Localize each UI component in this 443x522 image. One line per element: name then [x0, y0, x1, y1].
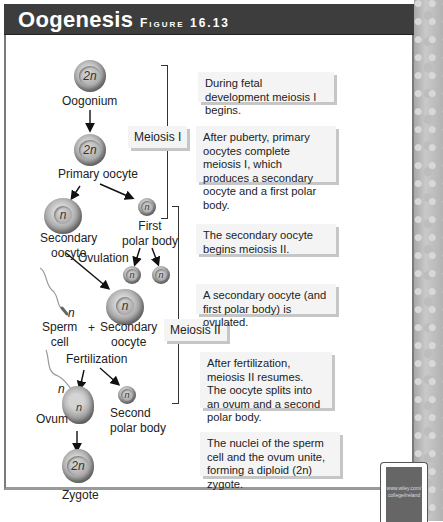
description-fetal-development: During fetal development meiosis I begin…: [198, 72, 334, 102]
description-zygote: The nuclei of the sperm cell and the ovu…: [200, 432, 340, 476]
ovulation-label: Ovulation: [78, 251, 129, 266]
second-polar-body-label-line1: Second: [110, 406, 151, 420]
ovum-ploidy: n: [72, 400, 86, 414]
second-polar-body-label-line2: polar body: [110, 421, 166, 435]
polar-body-a-ploidy: n: [126, 269, 138, 281]
oogonium-cell: 2n: [74, 60, 106, 92]
arrow-to-polar-body-a: [135, 248, 140, 264]
second-polar-body-label: Second polar body: [110, 406, 166, 436]
polar-body-b-cell: n: [152, 266, 170, 284]
description-fertilization: After fertilization, meiosis II resumes.…: [200, 352, 332, 408]
sperm-label-line1: Sperm: [42, 320, 77, 334]
primary-oocyte-cell: 2n: [74, 134, 106, 166]
polar-body-b-ploidy: n: [155, 269, 167, 281]
second-polar-body-ploidy: n: [121, 389, 133, 401]
secondary-oocyte-ploidy: n: [54, 206, 72, 224]
arrow-to-second-polar-body: [100, 368, 118, 384]
ovum-label: Ovum: [36, 412, 68, 427]
sperm-cell-label: Sperm cell: [42, 320, 77, 350]
oogonium-ploidy: 2n: [79, 66, 101, 86]
meiosis-1-label: Meiosis I: [128, 126, 187, 148]
arrow-to-polar-body-b: [152, 248, 158, 264]
web-link-line1: www.wiley.com/: [387, 485, 422, 491]
arrow-to-secondary-oocyte: [72, 186, 80, 198]
description-ovulated: A secondary oocyte (and first polar body…: [196, 284, 336, 314]
zygote-label: Zygote: [62, 488, 99, 503]
web-link-badge[interactable]: www.wiley.com/ college/ireland: [380, 462, 428, 522]
description-puberty: After puberty, primary oocytes complete …: [196, 126, 336, 182]
primary-oocyte-label: Primary oocyte: [58, 167, 138, 182]
web-link-text[interactable]: www.wiley.com/ college/ireland: [386, 467, 422, 522]
sperm-label-line2: cell: [51, 335, 69, 349]
primary-oocyte-ploidy: 2n: [79, 140, 101, 160]
sperm-tail: [40, 268, 64, 310]
first-polar-body-label-line2: polar body: [122, 234, 178, 248]
ovulated-oocyte-ploidy: n: [116, 297, 134, 315]
ovulated-oocyte-label: Secondary oocyte: [100, 320, 157, 350]
polar-body-a-cell: n: [123, 266, 141, 284]
secondary-oocyte-label-line1: Secondary: [40, 231, 97, 245]
ovulated-oocyte-label-line2: oocyte: [111, 335, 146, 349]
first-polar-body-cell: n: [138, 198, 156, 216]
ovulated-oocyte-label-line1: Secondary: [100, 320, 157, 334]
plus-sign: +: [88, 321, 95, 336]
secondary-oocyte-cell: n: [44, 198, 82, 234]
description-meiosis-2-begins: The secondary oocyte begins meiosis II.: [196, 224, 336, 254]
first-polar-body-label: First polar body: [122, 219, 178, 249]
oogonium-label: Oogonium: [62, 94, 117, 109]
first-polar-body-label-line1: First: [138, 219, 161, 233]
web-link-line2: college/ireland: [388, 492, 420, 498]
sperm-ploidy: n: [68, 306, 75, 321]
zygote-cell: 2n: [62, 449, 94, 483]
zygote-ploidy: 2n: [67, 456, 89, 476]
first-polar-body-ploidy: n: [141, 201, 153, 213]
sperm-head: [62, 308, 67, 314]
second-polar-body-cell: n: [118, 386, 136, 404]
arrow-to-first-polar-body: [100, 184, 132, 198]
fertilization-label: Fertilization: [66, 352, 127, 367]
